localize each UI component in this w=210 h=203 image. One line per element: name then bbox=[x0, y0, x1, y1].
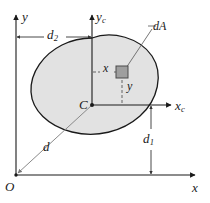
distance-d-label: d bbox=[43, 140, 50, 153]
axis-yc-subscript: c bbox=[102, 15, 106, 25]
element-y-label: y bbox=[127, 80, 132, 92]
origin-label: O bbox=[5, 180, 14, 193]
centroid-label: C bbox=[79, 98, 88, 111]
dimension-d2-base: d bbox=[47, 27, 54, 42]
element-x-label: x bbox=[103, 62, 108, 74]
dimension-d1-subscript: 1 bbox=[150, 137, 155, 147]
axis-yc-label: yc bbox=[96, 10, 106, 24]
centroid-diagram: y x O yc xc C d2 d1 d dA x y bbox=[0, 0, 210, 203]
area-element-dA bbox=[116, 66, 128, 78]
dimension-d2-subscript: 2 bbox=[54, 33, 59, 43]
axis-yc-base: y bbox=[96, 9, 102, 24]
centroid-dot bbox=[90, 103, 94, 107]
axis-x-label: x bbox=[192, 181, 198, 194]
dimension-d2-label: d2 bbox=[47, 28, 58, 42]
axis-xc-base: x bbox=[175, 98, 181, 113]
area-element-label: dA bbox=[153, 20, 166, 32]
dimension-d1-label: d1 bbox=[143, 132, 154, 146]
dimension-d1-base: d bbox=[143, 131, 150, 146]
axis-xc-label: xc bbox=[175, 99, 185, 113]
axis-xc-subscript: c bbox=[181, 104, 185, 114]
origin-dot bbox=[14, 173, 17, 176]
area-shape bbox=[31, 35, 158, 134]
axis-y-label: y bbox=[22, 10, 28, 23]
